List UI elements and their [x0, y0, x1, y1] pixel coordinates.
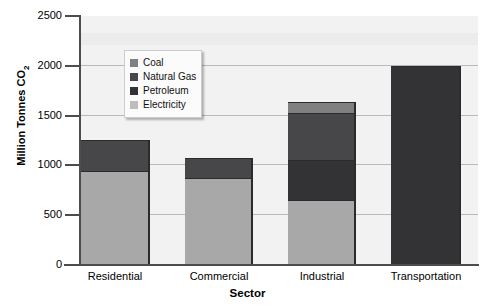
legend-label-natural-gas: Natural Gas — [143, 72, 196, 82]
y-tick-1500 — [65, 115, 79, 117]
legend-label-coal: Coal — [143, 58, 164, 68]
legend-item-coal[interactable]: Coal — [130, 56, 197, 70]
bar-transportation[interactable] — [391, 66, 461, 264]
bar-segment-petroleum — [391, 66, 459, 264]
legend[interactable]: Coal Natural Gas Petroleum Electricity — [124, 50, 202, 118]
bar-residential[interactable] — [80, 140, 150, 264]
legend-label-electricity: Electricity — [143, 100, 186, 110]
bar-segment-natural-gas — [185, 158, 251, 178]
y-axis-title-subscript: 2 — [22, 66, 31, 70]
legend-item-electricity[interactable]: Electricity — [130, 98, 197, 112]
y-tick-label-0: 0 — [8, 259, 62, 270]
bar-commercial[interactable] — [185, 158, 253, 264]
bar-segment-electricity — [288, 200, 354, 264]
bar-chart: 2500 2000 1500 1000 500 0 Million Tonnes… — [0, 0, 495, 307]
legend-label-petroleum: Petroleum — [143, 86, 189, 96]
bar-industrial[interactable] — [288, 102, 356, 264]
bar-segment-petroleum — [288, 160, 354, 200]
y-axis-title-text: Million Tonnes CO — [15, 70, 27, 166]
legend-swatch-coal — [130, 59, 138, 67]
bar-segment-electricity — [185, 178, 251, 264]
legend-item-natural-gas[interactable]: Natural Gas — [130, 70, 197, 84]
y-axis-title: Million Tonnes CO2 — [15, 31, 30, 201]
x-axis-line — [64, 264, 479, 266]
bar-segment-electricity — [80, 171, 148, 264]
x-axis-title: Sector — [0, 287, 495, 299]
x-tick-label-transportation: Transportation — [361, 270, 491, 282]
y-tick-1000 — [65, 164, 79, 166]
legend-swatch-electricity — [130, 101, 138, 109]
y-tick-label-500: 500 — [8, 209, 62, 220]
bar-segment-natural-gas — [80, 140, 148, 171]
plot-background-band — [80, 33, 478, 45]
bar-segment-natural-gas — [288, 113, 354, 160]
legend-swatch-petroleum — [130, 87, 138, 95]
y-tick-label-2500: 2500 — [8, 10, 62, 21]
legend-swatch-natural-gas — [130, 73, 138, 81]
y-tick-500 — [65, 214, 79, 216]
y-tick-0 — [65, 264, 79, 266]
y-axis-line — [79, 15, 81, 265]
y-tick-2500 — [65, 15, 79, 17]
y-tick-2000 — [65, 65, 79, 67]
bar-segment-coal — [288, 102, 354, 113]
legend-item-petroleum[interactable]: Petroleum — [130, 84, 197, 98]
